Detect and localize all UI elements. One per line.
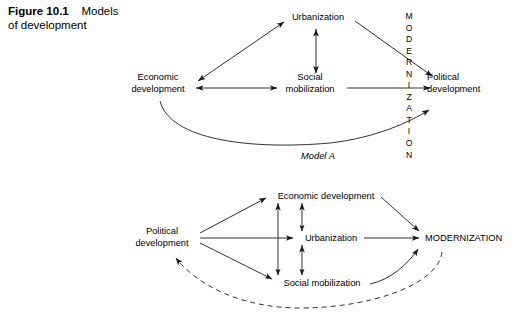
edge-political-social-b	[200, 243, 272, 279]
node-political-development-a: Political development	[427, 72, 507, 95]
edge-urban-political-a	[355, 21, 432, 76]
node-political-development-b: Political development	[122, 226, 202, 249]
node-label-line1: Political	[122, 226, 202, 238]
figure-container: Figure 10.1 Models of development	[0, 0, 515, 319]
node-label-line2: development	[427, 84, 507, 96]
node-modernization-a: M O D E R N I Z A T I O N	[401, 11, 417, 161]
node-economic-development-a: Economic development	[118, 72, 198, 95]
modernization-letter: I	[401, 80, 417, 92]
edge-econ-political-a	[160, 101, 429, 145]
modernization-letter: N	[401, 150, 417, 162]
node-label: Urbanization	[296, 233, 366, 245]
node-label: Urbanization	[278, 12, 358, 24]
modernization-letter: O	[401, 23, 417, 35]
node-label: Social mobilization	[272, 278, 372, 290]
node-social-mobilization-a: Social mobilization	[270, 72, 350, 95]
node-label: Economic development	[266, 191, 386, 203]
modernization-letter: Z	[401, 92, 417, 104]
modernization-letter: D	[401, 34, 417, 46]
modernization-letter: M	[401, 11, 417, 23]
modernization-letter: E	[401, 46, 417, 58]
edge-social-modernization-b	[370, 249, 418, 284]
node-social-mobilization-b: Social mobilization	[272, 278, 372, 290]
node-urbanization-a: Urbanization	[278, 12, 358, 24]
node-label-line1: Social	[270, 72, 350, 84]
modernization-letter: R	[401, 57, 417, 69]
diagram-canvas	[0, 0, 515, 319]
node-label-line2: development	[118, 84, 198, 96]
node-label-line2: development	[122, 238, 202, 250]
node-label-line2: mobilization	[270, 84, 350, 96]
modernization-letter: N	[401, 69, 417, 81]
node-label-line1: Economic	[118, 72, 198, 84]
model-a-caption: Model A	[278, 151, 358, 161]
node-urbanization-b: Urbanization	[296, 233, 366, 245]
modernization-letter: I	[401, 126, 417, 138]
modernization-letter: T	[401, 115, 417, 127]
edge-econ-modernization-b	[381, 197, 419, 231]
edge-political-econ-b	[200, 198, 266, 233]
node-modernization-b: MODERNIZATION	[425, 233, 502, 243]
model-b-edges	[176, 197, 442, 308]
modernization-letter: A	[401, 103, 417, 115]
node-label-line1: Political	[427, 72, 507, 84]
modernization-letter: O	[401, 138, 417, 150]
node-economic-development-b: Economic development	[266, 191, 386, 203]
